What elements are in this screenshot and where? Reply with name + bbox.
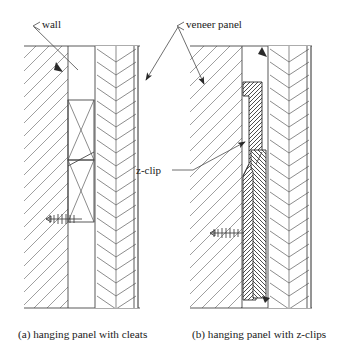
veneer-panel-label: veneer panel bbox=[186, 18, 242, 30]
panel-a-veneer bbox=[95, 46, 138, 309]
veneer-leader-tick bbox=[177, 22, 184, 30]
panel-a-cleat-bevel bbox=[68, 152, 94, 166]
technical-diagram: wall veneer panel z-clip (a) hanging pan… bbox=[0, 0, 341, 358]
panel-a-wall bbox=[8, 30, 78, 321]
panel-b-veneer bbox=[268, 46, 311, 309]
veneer-leader-line-left bbox=[146, 27, 178, 80]
panel-b-panel-z-clip bbox=[251, 150, 266, 298]
panel-a bbox=[8, 30, 140, 321]
z-clip-label: z-clip bbox=[136, 164, 162, 176]
caption-panel-b: (b) hanging panel with z-clips bbox=[192, 328, 326, 341]
panel-a-cleat-upper bbox=[68, 100, 94, 160]
panel-b bbox=[176, 30, 312, 321]
wall-leader-tick bbox=[33, 22, 40, 30]
panel-b-top-arrowhead bbox=[258, 47, 267, 57]
panel-b-wall bbox=[176, 30, 252, 321]
wall-label: wall bbox=[42, 18, 61, 30]
figure-root: wall veneer panel z-clip (a) hanging pan… bbox=[0, 0, 341, 358]
caption-panel-a: (a) hanging panel with cleats bbox=[18, 328, 147, 341]
panel-a-cleat-lower bbox=[68, 160, 94, 222]
